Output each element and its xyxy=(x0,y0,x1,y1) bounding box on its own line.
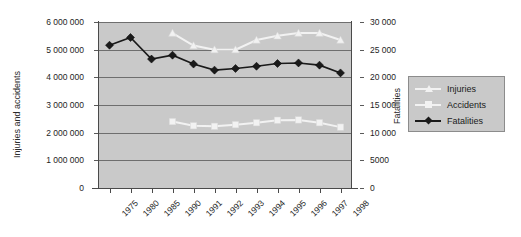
y-axis-left-tick-label: 1 000 000 xyxy=(46,155,84,165)
data-point-marker xyxy=(337,69,345,77)
data-point-marker xyxy=(169,118,175,124)
series-accidents xyxy=(169,117,343,131)
legend-marker-diamond-icon xyxy=(424,116,432,124)
x-axis-tick-labels: 1975198019851990199119921993199419951996… xyxy=(99,192,351,236)
y-axis-right-tick-label: 15 000 xyxy=(370,100,396,110)
y-axis-right-tick-label: 10 000 xyxy=(370,128,396,138)
legend-label: Accidents xyxy=(447,100,486,110)
y-axis-left-tick-labels: 01 000 0002 000 0003 000 0004 000 0005 0… xyxy=(26,0,84,237)
y-axis-right-tickmark xyxy=(360,50,364,51)
y-axis-right-tick-label: 5000 xyxy=(370,155,389,165)
x-axis-tick-label: 1975 xyxy=(119,198,139,218)
x-axis-tick-label: 1992 xyxy=(224,198,244,218)
y-axis-right-tickmark xyxy=(360,160,364,161)
y-axis-right-tickmark xyxy=(360,188,364,189)
legend-label: Injuries xyxy=(447,84,476,94)
data-point-marker xyxy=(274,60,282,68)
series-injuries xyxy=(169,29,345,53)
y-axis-right-tickmark xyxy=(360,105,364,106)
y-axis-left-tick-label: 4 000 000 xyxy=(46,72,84,82)
series-fatalities xyxy=(106,33,345,76)
data-point-marker xyxy=(337,124,343,130)
x-axis-tick-label: 1997 xyxy=(329,198,349,218)
y-axis-left-tick-label: 3 000 000 xyxy=(46,100,84,110)
data-point-marker xyxy=(211,66,219,74)
data-point-marker xyxy=(316,61,324,69)
x-axis-tick-label: 1996 xyxy=(308,198,328,218)
data-point-marker xyxy=(232,121,238,127)
legend-item-accidents: Accidents xyxy=(409,97,504,113)
x-axis-tick-label: 1980 xyxy=(140,198,160,218)
data-point-marker xyxy=(295,59,303,67)
legend-label: Fatalities xyxy=(447,116,483,126)
legend-marker-triangle-icon xyxy=(425,85,433,92)
y-axis-left-tick-label: 2 000 000 xyxy=(46,128,84,138)
y-axis-right-line xyxy=(351,21,352,189)
data-point-marker xyxy=(316,120,322,126)
data-point-marker xyxy=(232,64,240,72)
legend-marker-square-icon xyxy=(425,101,432,108)
y-axis-right-tickmark xyxy=(360,77,364,78)
data-point-marker xyxy=(106,41,114,49)
x-axis-tick-label: 1995 xyxy=(287,198,307,218)
series-line xyxy=(110,37,341,72)
data-point-marker xyxy=(295,117,301,123)
data-point-marker xyxy=(190,123,196,129)
data-point-marker xyxy=(169,29,177,36)
data-point-marker xyxy=(190,60,198,68)
y-axis-left-tick-label: 5 000 000 xyxy=(46,45,84,55)
legend-item-injuries: Injuries xyxy=(409,81,504,97)
legend-swatch-diamond-icon xyxy=(413,114,443,128)
x-axis-tick-label: 1985 xyxy=(161,198,181,218)
y-axis-right-tick-label: 0 xyxy=(370,183,375,193)
y-axis-right-tick-label: 25 000 xyxy=(370,45,396,55)
y-axis-left-tick-label: 0 xyxy=(79,183,84,193)
x-axis-tick-label: 1993 xyxy=(245,198,265,218)
data-point-marker xyxy=(274,117,280,123)
y-axis-right-tick-label: 30 000 xyxy=(370,17,396,27)
data-point-marker xyxy=(169,51,177,59)
data-series-layer xyxy=(99,22,351,188)
x-axis-tick-label: 1990 xyxy=(182,198,202,218)
legend-item-fatalities: Fatalities xyxy=(409,113,504,129)
x-axis-tick-label: 1991 xyxy=(203,198,223,218)
chart-legend: InjuriesAccidentsFatalities xyxy=(408,76,505,132)
chart-figure: Injuries and accidents Fatalities 01 000… xyxy=(0,0,521,237)
legend-swatch-square-icon xyxy=(413,98,443,112)
y-axis-right-tickmark xyxy=(360,22,364,23)
y-axis-left-tick-label: 6 000 000 xyxy=(46,17,84,27)
legend-swatch-triangle-icon xyxy=(413,82,443,96)
data-point-marker xyxy=(253,120,259,126)
data-point-marker xyxy=(211,123,217,129)
y-axis-right-tickmark xyxy=(360,133,364,134)
y-axis-left-title: Injuries and accidents xyxy=(12,44,22,184)
x-axis-tick-label: 1994 xyxy=(266,198,286,218)
data-point-marker xyxy=(253,62,261,70)
y-axis-right-tick-label: 20 000 xyxy=(370,72,396,82)
